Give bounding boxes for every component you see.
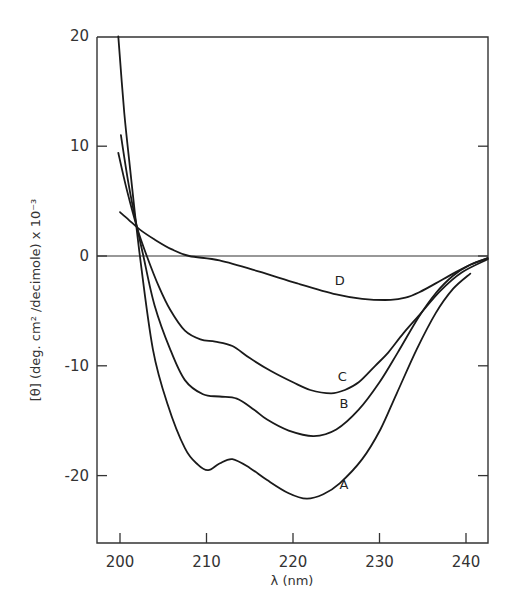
y-tick-label: -10 bbox=[65, 357, 90, 375]
x-tick-label: 200 bbox=[106, 553, 135, 571]
curve-a bbox=[118, 36, 470, 498]
curve-label-a: A bbox=[340, 477, 349, 492]
axis-ticks: 20021022023024020100-10-20 bbox=[65, 27, 489, 571]
y-axis-label: [θ] (deg. cm² /decimole) x 10⁻³ bbox=[28, 199, 43, 401]
curve-label-c: C bbox=[338, 369, 347, 384]
x-tick-label: 220 bbox=[279, 553, 308, 571]
curve-label-d: D bbox=[335, 273, 345, 288]
y-tick-label: 0 bbox=[79, 247, 89, 265]
curves bbox=[118, 36, 487, 498]
x-axis-label: λ (nm) bbox=[271, 573, 314, 588]
x-tick-label: 210 bbox=[192, 553, 221, 571]
curve-labels: ABCD bbox=[335, 273, 349, 492]
curve-label-b: B bbox=[340, 396, 349, 411]
y-tick-label: 10 bbox=[70, 137, 89, 155]
axes-frame bbox=[97, 37, 488, 543]
x-tick-label: 240 bbox=[452, 553, 481, 571]
cd-spectrum-chart: 20021022023024020100-10-20 ABCD λ (nm) [… bbox=[0, 0, 515, 613]
x-tick-label: 230 bbox=[365, 553, 394, 571]
y-tick-label: -20 bbox=[65, 467, 90, 485]
y-tick-label: 20 bbox=[70, 27, 89, 45]
plot-frame bbox=[97, 37, 488, 543]
